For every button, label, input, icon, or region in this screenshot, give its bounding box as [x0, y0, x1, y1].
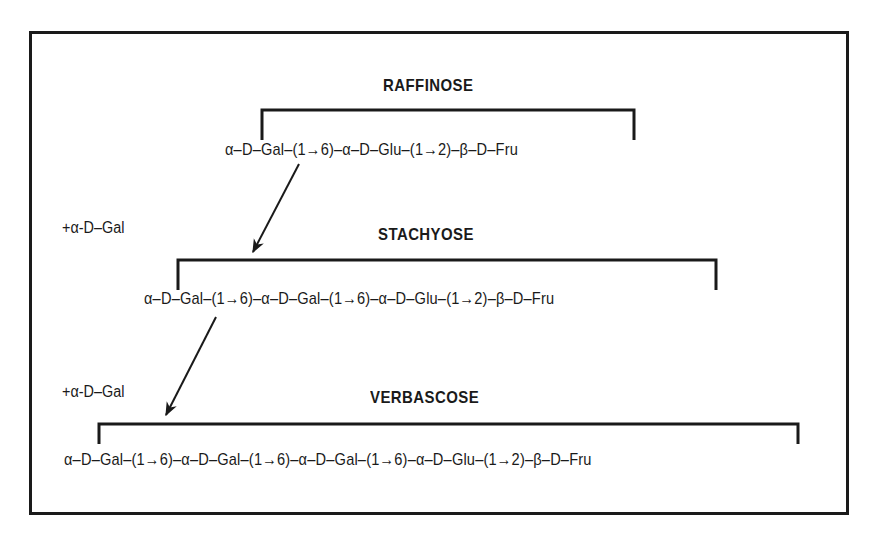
arrow-stachyose-to-verbascose-icon: [166, 317, 216, 415]
arrow-raffinose-to-stachyose-icon: [253, 164, 299, 252]
stachyose-title: STACHYOSE: [378, 225, 474, 245]
verbascose-added-unit-label: +α-D–Gal: [62, 383, 124, 401]
stachyose-linkage-bracket: [178, 260, 716, 290]
raffinose-linkage-bracket: [262, 110, 634, 140]
raffinose-chain: α–D–Gal–(1→6)–α–D–Glu–(1→2)–β–D–Fru: [225, 140, 518, 160]
raffinose-title: RAFFINOSE: [383, 76, 473, 96]
stachyose-chain: α–D–Gal–(1→6)–α–D–Gal–(1→6)–α–D–Glu–(1→2…: [144, 289, 554, 309]
verbascose-title: VERBASCOSE: [370, 388, 479, 408]
stachyose-added-unit-label: +α-D–Gal: [62, 219, 124, 237]
verbascose-chain: α–D–Gal–(1→6)–α–D–Gal–(1→6)–α–D–Gal–(1→6…: [64, 450, 592, 470]
verbascose-linkage-bracket: [99, 424, 798, 444]
